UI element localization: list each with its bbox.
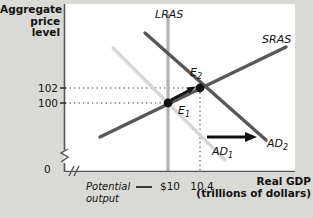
lras-label: LRAS <box>155 8 183 21</box>
potential-output-line-1: Potential <box>86 181 130 193</box>
sras-label: SRAS <box>262 33 291 46</box>
ad1-label-text: AD <box>212 145 228 158</box>
potential-output-annotation: Potential output <box>86 181 130 205</box>
e1-label: E1 <box>178 104 190 119</box>
ad-shift-arrow <box>207 132 257 142</box>
ad2-label-text: AD <box>267 137 283 150</box>
origin-label: 0 <box>44 163 51 175</box>
aggregate-demand-supply-figure: Aggregate price level Real GDP (trillion… <box>0 0 313 218</box>
e1-label-text: E <box>178 104 185 117</box>
ad2-label-subscript: 2 <box>283 143 288 152</box>
y-axis-title-line-3: level <box>0 27 60 39</box>
e2-label-subscript: 2 <box>197 72 202 81</box>
ad1-label-subscript: 1 <box>228 151 233 160</box>
point-e2 <box>196 84 205 93</box>
e2-label-text: E <box>190 66 197 79</box>
y-axis-break-icon <box>61 149 68 162</box>
potential-output-line-2: output <box>86 193 130 205</box>
ad1-label: AD1 <box>212 145 233 160</box>
y-tick-label-102: 102 <box>20 82 58 94</box>
ad2-label: AD2 <box>267 137 288 152</box>
y-tick-label-100: 100 <box>20 97 58 109</box>
x-tick-label-10-4: 10.4 <box>182 180 222 192</box>
y-axis-title-line-1: Aggregate <box>0 4 60 16</box>
e2-label: E2 <box>190 66 202 81</box>
y-axis-title: Aggregate price level <box>0 4 60 39</box>
e1-label-subscript: 1 <box>185 110 190 119</box>
